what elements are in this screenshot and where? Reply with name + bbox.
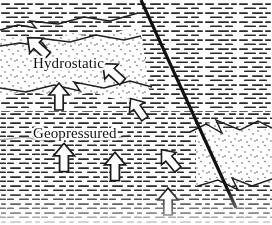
geological-cross-section-figure: Hydrostatic Geopressured: [0, 0, 272, 225]
hydrostatic-label: Hydrostatic: [33, 55, 104, 71]
cross-section-canvas: Hydrostatic Geopressured: [0, 0, 272, 225]
geopressured-label: Geopressured: [33, 125, 117, 141]
sand-body-lower-right: [196, 121, 272, 188]
